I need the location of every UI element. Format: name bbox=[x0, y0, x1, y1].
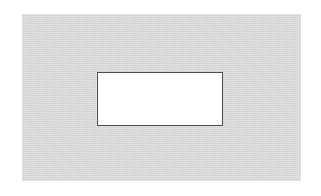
inner-rectangle-interior bbox=[98, 73, 222, 125]
scan-artifact-speck bbox=[252, 6, 261, 11]
scan-artifact-speck bbox=[228, 2, 242, 9]
figure-canvas bbox=[0, 0, 321, 196]
scan-artifact-speck bbox=[60, 186, 82, 192]
inner-white-rectangle bbox=[97, 72, 223, 126]
